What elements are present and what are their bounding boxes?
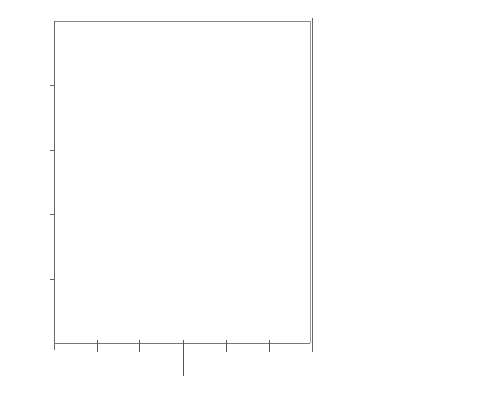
y-tickmark-40 <box>50 214 55 215</box>
x-axis <box>54 343 310 344</box>
y-tickmark-20 <box>50 279 55 280</box>
y-tickmark-60 <box>50 150 55 151</box>
x-separator <box>139 340 140 352</box>
plot-top-border <box>54 21 310 22</box>
y-tickmark-80 <box>50 85 55 86</box>
legend <box>312 18 480 352</box>
stacked-bar-chart <box>0 0 480 408</box>
y-axis <box>54 21 55 350</box>
year-separator <box>183 340 184 376</box>
plot-right-border <box>310 21 311 343</box>
x-separator <box>97 340 98 352</box>
x-separator <box>269 340 270 352</box>
x-separator <box>226 340 227 352</box>
